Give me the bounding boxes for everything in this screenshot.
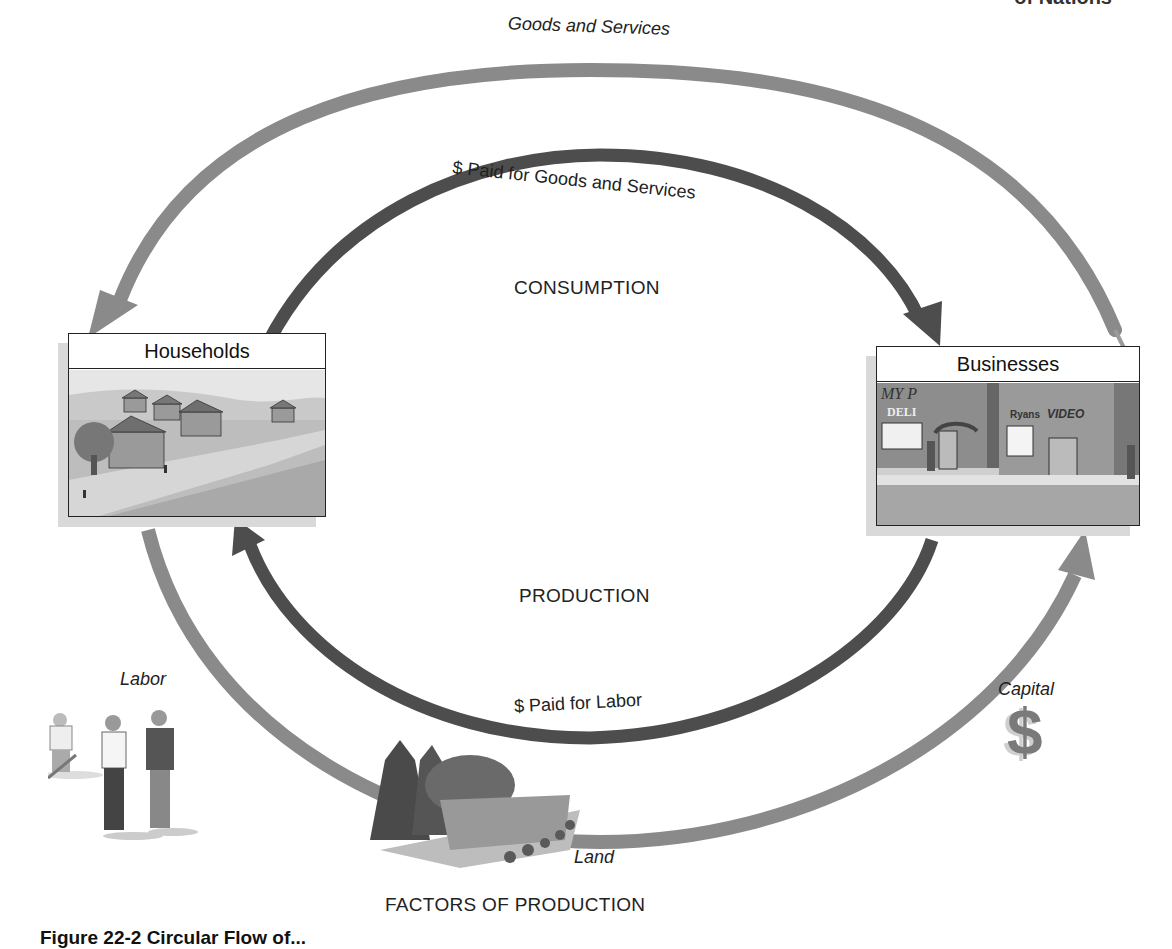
- video-sign: VIDEO: [1047, 407, 1084, 421]
- labor-label: Labor: [120, 669, 166, 690]
- dollar-sign-icon: $: [1007, 700, 1043, 764]
- land-label: Land: [574, 847, 614, 868]
- households-illustration: [69, 370, 325, 516]
- factors-arc: [148, 530, 1075, 842]
- households-box: Households: [68, 333, 326, 517]
- businesses-title: Businesses: [877, 347, 1139, 382]
- consumption-label: CONSUMPTION: [514, 277, 660, 299]
- factors-of-production-title: FACTORS OF PRODUCTION: [385, 894, 645, 916]
- goods-services-arrowhead: [88, 290, 138, 338]
- production-label: PRODUCTION: [519, 585, 650, 607]
- video-brand-sign: Ryans: [1010, 409, 1040, 420]
- labor-workers-illustration: [48, 700, 198, 840]
- factors-arrowhead: [1058, 530, 1095, 580]
- households-title: Households: [69, 334, 325, 369]
- figure-caption: Figure 22-2 Circular Flow of...: [40, 927, 306, 949]
- businesses-box: Businesses MY P DELI Ryans VIDEO: [876, 346, 1140, 526]
- my-sign: MY P: [881, 385, 917, 403]
- deli-sign: DELI: [887, 405, 916, 420]
- land-illustration: [340, 740, 580, 870]
- businesses-illustration: MY P DELI Ryans VIDEO: [877, 383, 1139, 525]
